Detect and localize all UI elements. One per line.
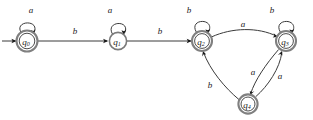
edge-q1-q1: a: [108, 5, 127, 35]
state-q2-label-subscript: 2: [202, 41, 205, 47]
q2-q3-curve: [211, 30, 276, 37]
q4-q2-curve: [203, 52, 239, 99]
state-q0-label-subscript: 0: [27, 41, 30, 47]
state-q4[interactable]: q4: [238, 94, 257, 113]
edge-label-q1-q2: b: [158, 26, 163, 36]
state-q3[interactable]: q3: [276, 31, 296, 51]
edge-label-q4-q2: b: [208, 80, 213, 90]
q4-q3-arrow-head: [278, 51, 283, 55]
edge-q1-q2: b: [127, 26, 192, 43]
edge-q2-q2: b: [187, 5, 211, 34]
edge-label-q2-q2: b: [187, 5, 192, 15]
edge-start-arrow: [2, 39, 17, 44]
edge-label-q0-q0: a: [29, 5, 34, 15]
edge-label-q2-q3: a: [241, 19, 246, 29]
automaton-canvas: a b a b b a: [0, 0, 313, 120]
edge-q2-q3: a: [211, 19, 278, 38]
edge-q3-q3: b: [270, 5, 295, 34]
edge-label-q3-q4: a: [251, 67, 256, 77]
edge-label-q3-q3: b: [270, 5, 275, 15]
state-q1-label-subscript: 1: [118, 41, 121, 47]
state-q3-label-subscript: 3: [285, 41, 289, 47]
automaton-diagram: a b a b b a: [0, 0, 313, 120]
state-q4-label-subscript: 4: [248, 104, 251, 110]
state-q1[interactable]: q1: [109, 32, 126, 49]
edge-q4-q2: b: [202, 51, 239, 100]
state-q2[interactable]: q2: [192, 31, 212, 51]
edge-label-q4-q3: a: [278, 71, 283, 81]
edge-label-q0-q1: b: [73, 26, 78, 36]
edge-q0-q1: b: [38, 26, 108, 43]
edge-label-q1-q1: a: [108, 5, 113, 15]
state-q0[interactable]: q0: [17, 31, 38, 52]
